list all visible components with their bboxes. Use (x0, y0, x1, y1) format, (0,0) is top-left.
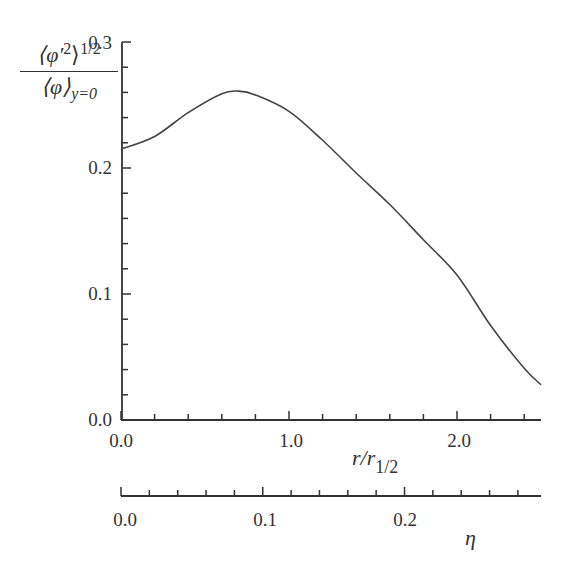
y-axis-title-denominator: ⟨φ⟩y=0 (20, 72, 118, 103)
y-axis-title-numerator: ⟨φ′2⟩1/2 (20, 40, 118, 72)
y-tick-label: 0.2 (88, 157, 112, 178)
x-tick-label: 0.0 (109, 430, 133, 451)
x-axis-ticks (121, 411, 524, 420)
eta-tick-label: 0.1 (253, 509, 277, 530)
y-tick-label: 0.1 (88, 283, 112, 304)
data-curve (121, 91, 541, 385)
x-axis-title: r/r1/2 (352, 445, 398, 477)
x-tick-label: 2.0 (447, 430, 471, 451)
eta-axis-title: η (465, 525, 476, 550)
y-axis-ticks (122, 42, 131, 420)
x-tick-label: 1.0 (279, 430, 303, 451)
eta-tick-label: 0.2 (393, 509, 417, 530)
eta-axis-ticks (121, 487, 518, 496)
y-axis-title: ⟨φ′2⟩1/2 ⟨φ⟩y=0 (20, 40, 118, 104)
y-tick-label: 0.0 (88, 409, 112, 430)
eta-tick-label: 0.0 (113, 509, 137, 530)
